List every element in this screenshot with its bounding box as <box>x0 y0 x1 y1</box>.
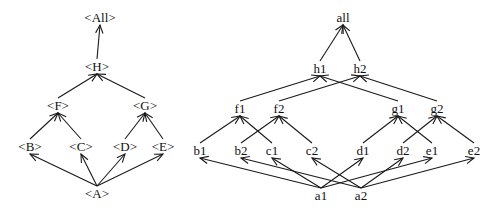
edge-D-to-G <box>125 113 145 139</box>
node-c1: c1 <box>266 143 278 158</box>
node-g1: g1 <box>392 101 405 116</box>
node-All: <All> <box>84 10 115 25</box>
edge-G-to-H <box>97 74 145 98</box>
edge-b1-to-f1 <box>200 116 240 143</box>
arrowhead-icon <box>272 158 281 165</box>
node-G: <G> <box>133 98 157 113</box>
edge-C-to-F <box>58 113 81 139</box>
arrowhead-icon <box>231 116 240 124</box>
edge-B-to-F <box>30 113 58 139</box>
node-d2: d2 <box>397 143 410 158</box>
node-F: <F> <box>47 98 69 113</box>
edge-A-to-D <box>97 154 125 186</box>
edge-d2-to-g2 <box>403 116 437 143</box>
edge-a1-to-b1 <box>200 156 321 188</box>
node-E: <E> <box>152 139 175 154</box>
edge-A-to-E <box>97 154 163 186</box>
edge-c2-to-f2 <box>279 116 312 143</box>
edge-h2-to-all <box>343 25 360 61</box>
edge-g1-to-h1 <box>320 75 398 101</box>
node-f2: f2 <box>274 101 285 116</box>
node-d1: d1 <box>357 143 370 158</box>
edge-a2-to-d2 <box>361 158 403 188</box>
edge-H-to-All <box>96 25 103 59</box>
node-B: <B> <box>18 139 41 154</box>
abstract-lattice-nodes: <All><H><F><G><B><C><D><E><A> <box>18 10 174 201</box>
edge-f1-to-h1 <box>240 75 320 101</box>
node-C: <C> <box>69 139 92 154</box>
node-e2: e2 <box>468 143 480 158</box>
arrowhead-icon <box>335 25 343 34</box>
instance-lattice-nodes: allh1h2f1f2g1g2b1b2c1c2d1d2e1e2a1a2 <box>194 10 481 203</box>
edge-b2-to-f2 <box>241 116 279 143</box>
node-H: <H> <box>85 59 109 74</box>
node-a1: a1 <box>315 188 327 203</box>
edge-a1-to-e1 <box>321 157 432 188</box>
node-D: <D> <box>113 139 137 154</box>
edge-F-to-H <box>58 74 97 98</box>
node-a2: a2 <box>355 188 367 203</box>
node-h1: h1 <box>314 61 327 76</box>
nodes-layer: <All><H><F><G><B><C><D><E><A>allh1h2f1f2… <box>18 10 480 203</box>
node-g2: g2 <box>431 101 444 116</box>
edges-layer <box>30 25 474 188</box>
edge-E-to-G <box>145 113 163 139</box>
edge-d1-to-g1 <box>363 116 398 143</box>
arrowhead-icon <box>88 74 97 81</box>
node-b2: b2 <box>235 143 248 158</box>
edge-e2-to-g2 <box>437 116 474 143</box>
arrowhead-icon <box>270 116 279 124</box>
edge-A-to-C <box>81 154 97 186</box>
node-h2: h2 <box>354 61 367 76</box>
arrowhead-icon <box>145 113 153 122</box>
edge-a1-to-c1 <box>272 158 321 188</box>
node-f1: f1 <box>235 101 246 116</box>
node-b1: b1 <box>194 143 207 158</box>
node-c2: c2 <box>306 143 318 158</box>
edge-c1-to-f1 <box>240 116 272 143</box>
node-e1: e1 <box>426 143 438 158</box>
arrowhead-icon <box>312 158 321 165</box>
edge-g2-to-h2 <box>360 75 437 101</box>
edge-h1-to-all <box>320 25 343 61</box>
diagram-canvas: <All><H><F><G><B><C><D><E><A>allh1h2f1f2… <box>0 0 500 219</box>
node-A: <A> <box>85 186 109 201</box>
edge-e1-to-g1 <box>398 116 432 143</box>
lattice-diagrams: <All><H><F><G><B><C><D><E><A>allh1h2f1f2… <box>0 0 500 219</box>
node-all: all <box>337 10 350 25</box>
edge-f2-to-h2 <box>279 75 360 101</box>
